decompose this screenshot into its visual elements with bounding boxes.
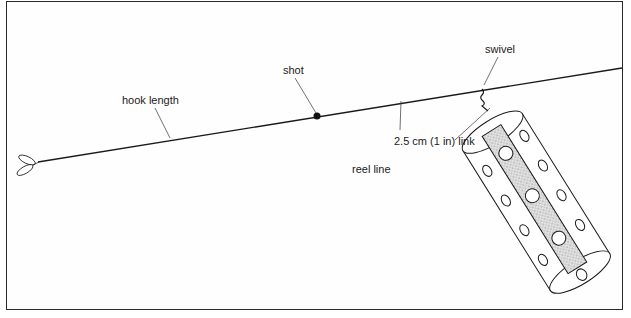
- label-shot: shot: [283, 64, 304, 76]
- label-reel-line: reel line: [352, 163, 391, 175]
- feeder-rig-diagram: hook length shot swivel 2.5 cm (1 in) li…: [0, 0, 631, 318]
- leader-lines: [155, 57, 498, 140]
- label-link: 2.5 cm (1 in) link: [394, 135, 475, 147]
- split-shot-icon: [314, 113, 321, 120]
- label-swivel: swivel: [485, 43, 515, 55]
- swivel-icon: [481, 89, 488, 111]
- swimfeeder-icon: [457, 103, 617, 300]
- maggot-bait-icon: [15, 153, 39, 178]
- label-hook-length: hook length: [122, 94, 179, 106]
